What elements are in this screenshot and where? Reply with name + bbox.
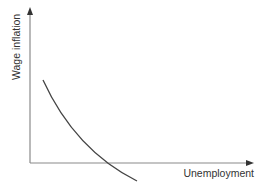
- x-axis-arrow-icon: [246, 160, 254, 166]
- phillips-curve-diagram: Unemployment Wage inflation: [0, 0, 268, 189]
- x-axis-label: Unemployment: [183, 167, 254, 179]
- y-axis-label: Wage inflation: [10, 14, 22, 80]
- phillips-curve: [43, 80, 137, 181]
- y-axis-arrow-icon: [27, 7, 33, 15]
